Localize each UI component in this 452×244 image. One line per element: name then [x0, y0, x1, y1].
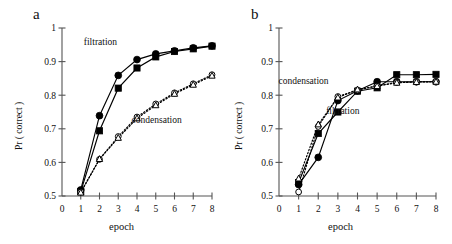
x-tick-label: 3 [116, 204, 121, 214]
y-tick-label: 0.7 [44, 124, 56, 134]
annotation-filtration: filtration [326, 106, 359, 116]
marker-condensation-circle [296, 189, 302, 195]
x-tick-label: 2 [97, 204, 102, 214]
y-tick-label: 0.9 [44, 57, 56, 67]
marker-filtration-square [394, 72, 400, 78]
marker-filtration-square [115, 85, 121, 91]
marker-filtration-square [171, 48, 177, 54]
panel-a: a Pr ( correct ) epoch 0.50.60.70.80.910… [0, 0, 226, 244]
x-tick-label: 1 [78, 204, 83, 214]
x-tick-label: 6 [172, 204, 177, 214]
x-tick-label: 5 [375, 204, 380, 214]
y-tick-label: 0.7 [261, 124, 273, 134]
marker-filtration-square [209, 43, 215, 49]
figure-root: a Pr ( correct ) epoch 0.50.60.70.80.910… [0, 0, 452, 244]
annotation-condensation: condensation [132, 115, 182, 125]
panel-a-plot: 0.50.60.70.80.91012345678filtrationconde… [0, 0, 226, 244]
x-tick-label: 5 [153, 204, 158, 214]
y-tick-label: 0.5 [44, 191, 56, 201]
marker-filtration-square [134, 65, 140, 71]
x-tick-label: 8 [210, 204, 215, 214]
x-tick-label: 7 [414, 204, 419, 214]
y-tick-label: 0.6 [261, 158, 273, 168]
x-tick-label: 1 [296, 204, 301, 214]
annotation-condensation: condensation [278, 76, 328, 86]
y-tick-label: 1 [268, 23, 273, 33]
y-tick-label: 1 [51, 23, 56, 33]
marker-filtration-circle [315, 154, 322, 161]
marker-filtration-square [153, 54, 159, 60]
marker-filtration-square [96, 128, 102, 134]
marker-filtration-circle [134, 56, 141, 63]
x-tick-label: 4 [355, 204, 360, 214]
marker-filtration-square [433, 71, 439, 77]
marker-filtration-square [315, 130, 321, 136]
marker-filtration-circle [115, 72, 122, 79]
marker-filtration-square [190, 46, 196, 52]
y-tick-label: 0.5 [261, 191, 273, 201]
marker-filtration-square [413, 72, 419, 78]
annotation-filtration: filtration [84, 37, 117, 47]
x-tick-label: 2 [316, 204, 321, 214]
x-tick-label: 0 [277, 204, 282, 214]
marker-filtration-circle [96, 112, 103, 119]
x-tick-label: 3 [336, 204, 341, 214]
y-tick-label: 0.6 [44, 158, 56, 168]
y-tick-label: 0.8 [261, 91, 273, 101]
panel-b-plot: 0.50.60.70.80.91012345678condensationfil… [226, 0, 452, 244]
y-tick-label: 0.9 [261, 57, 273, 67]
x-tick-label: 6 [394, 204, 399, 214]
y-tick-label: 0.8 [44, 91, 56, 101]
panel-b: b Pr ( correct ) epoch 0.50.60.70.80.910… [226, 0, 452, 244]
x-tick-label: 7 [191, 204, 196, 214]
x-tick-label: 8 [434, 204, 439, 214]
x-tick-label: 0 [60, 204, 65, 214]
x-tick-label: 4 [135, 204, 140, 214]
